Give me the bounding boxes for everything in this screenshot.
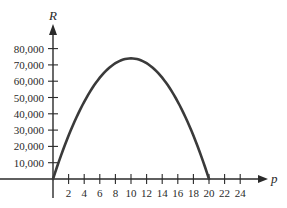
x-tick-label: 10: [126, 187, 138, 199]
x-tick-label: 18: [188, 187, 200, 199]
x-axis-ticks: 24681012141618202224: [66, 174, 246, 199]
y-tick-label: 70,000: [14, 59, 45, 71]
x-tick-label: 24: [235, 187, 247, 199]
x-axis-label: p: [270, 171, 278, 186]
x-tick-label: 14: [157, 187, 169, 199]
x-tick-label: 8: [113, 187, 119, 199]
y-tick-label: 80,000: [14, 43, 45, 55]
x-tick-label: 4: [81, 187, 87, 199]
y-axis-ticks: 10,00020,00030,00040,00050,00060,00070,0…: [14, 43, 58, 169]
x-tick-label: 16: [172, 187, 184, 199]
revenue-curve: [53, 58, 209, 179]
y-tick-label: 40,000: [14, 108, 45, 120]
x-tick-label: 2: [66, 187, 72, 199]
y-tick-label: 10,000: [14, 157, 45, 169]
y-tick-label: 20,000: [14, 140, 45, 152]
y-axis-arrow-icon: [49, 24, 57, 35]
x-tick-label: 6: [97, 187, 103, 199]
x-tick-label: 12: [141, 187, 152, 199]
x-tick-label: 20: [204, 187, 216, 199]
y-tick-label: 30,000: [14, 124, 45, 136]
revenue-chart: 10,00020,00030,00040,00050,00060,00070,0…: [0, 0, 287, 208]
y-tick-label: 60,000: [14, 75, 45, 87]
x-axis-arrow-icon: [258, 175, 268, 183]
y-tick-label: 50,000: [14, 92, 45, 104]
x-tick-label: 22: [219, 187, 230, 199]
y-axis-label: R: [48, 8, 57, 23]
